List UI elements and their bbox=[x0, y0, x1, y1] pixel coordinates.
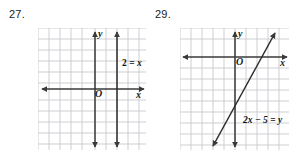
graph-27-svg bbox=[38, 28, 146, 150]
x-axis-label-27: x bbox=[136, 90, 141, 100]
origin-label-27: O bbox=[95, 89, 102, 99]
x-axis-label-29: x bbox=[280, 58, 285, 68]
equation-rhs-29: y bbox=[278, 115, 282, 125]
graph-29-svg bbox=[180, 28, 289, 150]
origin-label-29: O bbox=[236, 57, 243, 67]
problem-number-27: 27. bbox=[9, 8, 25, 20]
graph-29: O y x 2x − 5 = y bbox=[180, 28, 289, 150]
problem-number-29: 29. bbox=[155, 8, 171, 20]
equation-rhs-27: x bbox=[137, 58, 142, 68]
equation-lhs-29: 2x − 5 bbox=[243, 115, 268, 125]
problem-29: 29. bbox=[145, 0, 290, 162]
equation-label-29: 2x − 5 = y bbox=[243, 116, 282, 126]
y-axis-label-27: y bbox=[98, 29, 102, 39]
problem-27: 27. bbox=[0, 0, 145, 162]
y-axis-label-29: y bbox=[238, 29, 242, 39]
worksheet-page: 27. bbox=[0, 0, 290, 162]
line-2x-minus-5-equals-y bbox=[213, 33, 275, 146]
equation-label-27: 2 = x bbox=[122, 59, 142, 69]
graph-27: O y x 2 = x bbox=[38, 28, 146, 150]
